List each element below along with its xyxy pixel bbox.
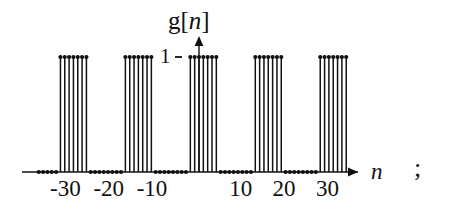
stem-marker — [236, 170, 240, 174]
stem-marker — [50, 170, 54, 174]
stem-marker — [284, 170, 288, 174]
x-tick-label: -10 — [137, 177, 168, 200]
stem-marker — [219, 170, 223, 174]
stem-marker — [180, 170, 184, 174]
stem-marker — [309, 170, 313, 174]
stem-marker — [128, 55, 132, 59]
stem-marker — [76, 55, 80, 59]
stem-marker — [45, 170, 49, 174]
stem-marker — [314, 170, 318, 174]
stem-marker — [296, 170, 300, 174]
stem-marker — [214, 55, 218, 59]
stem-marker — [63, 55, 67, 59]
stem-marker — [331, 55, 335, 59]
stem-marker — [249, 170, 253, 174]
stem-marker — [227, 170, 231, 174]
stem-marker — [58, 55, 62, 59]
y-axis-label-var: n — [189, 7, 202, 34]
stem-marker — [188, 55, 192, 59]
stem-marker — [110, 170, 114, 174]
x-tick-label: -20 — [93, 177, 124, 200]
stem-marker — [184, 170, 188, 174]
stem-marker — [115, 170, 119, 174]
stem-plot-figure: g[n] 1 n ; -30-20-10102030 — [0, 0, 450, 211]
stem-marker — [145, 55, 149, 59]
y-axis-label-text: g[ — [168, 7, 189, 34]
stem-marker — [54, 170, 58, 174]
stem-marker — [206, 55, 210, 59]
y-axis-label: g[n] — [168, 8, 210, 33]
stem-marker — [197, 55, 201, 59]
stem-marker — [167, 170, 171, 174]
stem-marker — [288, 170, 292, 174]
stem-marker — [305, 170, 309, 174]
y-axis-arrow-icon — [195, 36, 204, 46]
stem-marker — [106, 170, 110, 174]
stem-marker — [348, 170, 352, 174]
stem-marker — [93, 170, 97, 174]
stem-marker — [175, 170, 179, 174]
stem-marker — [67, 55, 71, 59]
stem-marker — [253, 55, 257, 59]
x-tick-label: 20 — [273, 177, 296, 200]
stem-series — [37, 55, 353, 174]
stem-marker — [275, 55, 279, 59]
stem-marker — [344, 55, 348, 59]
stem-marker — [89, 170, 93, 174]
stem-marker — [80, 55, 84, 59]
stem-marker — [123, 55, 127, 59]
stem-marker — [162, 170, 166, 174]
stem-marker — [292, 170, 296, 174]
stem-marker — [232, 170, 236, 174]
stem-marker — [37, 170, 41, 174]
stem-marker — [154, 170, 158, 174]
stem-marker — [158, 170, 162, 174]
stem-marker — [71, 55, 75, 59]
x-tick-label: 30 — [316, 177, 339, 200]
stem-marker — [266, 55, 270, 59]
stem-marker — [318, 55, 322, 59]
x-axis-label: n — [371, 160, 383, 183]
y-axis-label-close: ] — [201, 7, 209, 34]
stem-marker — [141, 55, 145, 59]
stem-marker — [102, 170, 106, 174]
amplitude-label: 1 — [160, 46, 171, 67]
stem-marker — [340, 55, 344, 59]
stem-marker — [119, 170, 123, 174]
stem-marker — [335, 55, 339, 59]
stem-marker — [279, 55, 283, 59]
stem-marker — [149, 55, 153, 59]
trailing-semicolon: ; — [414, 155, 421, 181]
stem-marker — [223, 170, 227, 174]
stem-marker — [136, 55, 140, 59]
stem-marker — [210, 55, 214, 59]
x-tick-label: -30 — [50, 177, 81, 200]
x-tick-label: 10 — [229, 177, 252, 200]
stem-marker — [41, 170, 45, 174]
stem-marker — [271, 55, 275, 59]
stem-marker — [193, 55, 197, 59]
stem-marker — [84, 55, 88, 59]
stem-marker — [201, 55, 205, 59]
stem-marker — [97, 170, 101, 174]
stem-marker — [301, 170, 305, 174]
stem-marker — [327, 55, 331, 59]
stem-marker — [262, 55, 266, 59]
stem-marker — [245, 170, 249, 174]
stem-marker — [171, 170, 175, 174]
stem-marker — [132, 55, 136, 59]
stem-marker — [240, 170, 244, 174]
stem-marker — [322, 55, 326, 59]
stem-marker — [258, 55, 262, 59]
